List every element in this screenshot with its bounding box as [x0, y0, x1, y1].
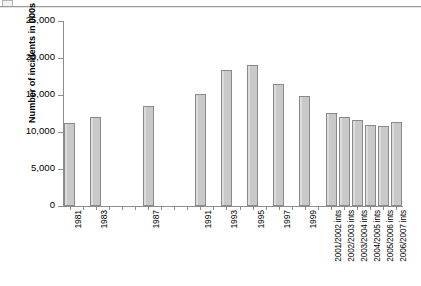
y-tick-mark — [58, 132, 63, 133]
figure-canvas: Number of incidents in 000s 05,00010,000… — [0, 0, 421, 286]
y-tick-label: 25,000 — [26, 14, 55, 25]
bar — [143, 106, 154, 206]
x-tick-label: 1987 — [151, 210, 161, 229]
x-tick-label: 2002/2003 ints — [347, 210, 356, 262]
y-tick-mark — [58, 206, 63, 207]
y-tick-mark — [58, 95, 63, 96]
y-tick-mark — [58, 21, 63, 22]
x-tick-label: 2003/2004 ints — [360, 210, 369, 262]
x-tick-label: 1999 — [308, 210, 318, 229]
x-tick-label: 1995 — [256, 210, 266, 229]
x-tick-label: 2006/2007 ints — [399, 210, 408, 262]
y-tick-label: 15,000 — [26, 88, 55, 99]
y-tick-label: 20,000 — [26, 51, 55, 62]
x-tick-label: 1981 — [73, 210, 83, 229]
bar — [299, 96, 310, 206]
y-tick-label: 0 — [50, 199, 55, 210]
bar — [195, 94, 206, 206]
y-tick-mark — [58, 58, 63, 59]
x-tick-label: 1997 — [282, 210, 292, 229]
bar — [378, 126, 389, 206]
x-tick-label-group: 198119831987199119931995199719992001/200… — [63, 210, 403, 286]
plot-area: 05,00010,00015,00020,00025,000 — [63, 21, 403, 206]
top-divider-shadow — [0, 7, 421, 8]
bar — [326, 113, 337, 206]
bar — [365, 125, 376, 206]
bar — [273, 84, 284, 206]
bar — [221, 70, 232, 206]
x-tick-label: 1993 — [229, 210, 239, 229]
bar — [90, 117, 101, 206]
x-tick-label: 2005/2006 ints — [386, 210, 395, 262]
y-tick-label: 5,000 — [31, 162, 55, 173]
x-tick-label: 1983 — [99, 210, 109, 229]
y-tick-label: 10,000 — [26, 125, 55, 136]
bar — [352, 120, 363, 206]
bar — [391, 122, 402, 206]
bar — [247, 65, 258, 206]
x-tick-label: 2004/2005 ints — [373, 210, 382, 262]
bar — [64, 123, 75, 206]
bar-series — [63, 21, 403, 206]
x-axis-line — [63, 206, 403, 207]
x-tick-label: 1991 — [203, 210, 213, 229]
bar — [339, 117, 350, 206]
y-tick-mark — [58, 169, 63, 170]
x-tick-label: 2001/2002 ints — [334, 210, 343, 262]
